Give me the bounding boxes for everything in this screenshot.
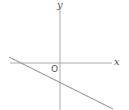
origin-label: O bbox=[51, 65, 58, 74]
x-axis-label: x bbox=[114, 57, 120, 67]
graph-line bbox=[9, 57, 113, 109]
y-axis-label: y bbox=[57, 0, 63, 10]
coordinate-plane bbox=[0, 0, 129, 110]
